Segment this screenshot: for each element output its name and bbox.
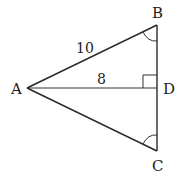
triangle-diagram: A B D C 10 8	[0, 0, 183, 184]
segment-ac	[27, 88, 157, 151]
vertex-label-b: B	[152, 4, 163, 22]
length-label-ad: 8	[97, 71, 106, 87]
vertex-label-d: D	[163, 80, 175, 98]
vertex-label-c: C	[152, 157, 163, 175]
right-angle-mark	[143, 75, 157, 88]
length-label-ab: 10	[76, 40, 94, 56]
vertex-label-a: A	[10, 80, 22, 98]
angle-arc-c	[143, 135, 157, 144]
segment-ab	[27, 25, 157, 88]
angle-arc-b	[143, 32, 157, 41]
